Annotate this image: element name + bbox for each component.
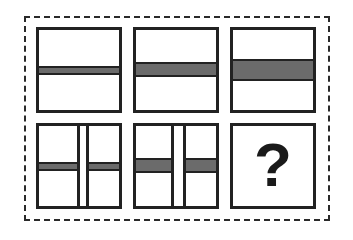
- horizontal-band: [39, 66, 119, 75]
- vertical-split-divider: [171, 126, 186, 206]
- panel-4-split-thin-band: [36, 123, 122, 209]
- horizontal-band: [136, 62, 216, 77]
- panel-2-medium-band: [133, 27, 219, 113]
- panel-1-thin-band: [36, 27, 122, 113]
- vertical-split-divider: [77, 126, 89, 206]
- panel-5-split-medium-band: [133, 123, 219, 209]
- horizontal-band: [233, 59, 313, 81]
- panel-6-missing: ?: [230, 123, 316, 209]
- question-mark: ?: [233, 134, 313, 196]
- panel-3-thick-band: [230, 27, 316, 113]
